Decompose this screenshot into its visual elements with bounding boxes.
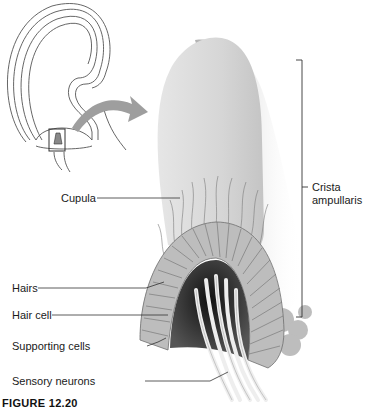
label-crista-line2: ampullaris <box>312 194 362 206</box>
label-cupula: Cupula <box>61 192 96 204</box>
label-supporting-cells: Supporting cells <box>12 340 90 352</box>
label-crista-line1: Crista <box>312 181 341 193</box>
inset-canal <box>7 4 126 172</box>
label-sensory-neurons: Sensory neurons <box>12 375 95 387</box>
figure-caption: FIGURE 12.20 <box>2 397 78 407</box>
label-hair-cell: Hair cell <box>12 309 52 321</box>
label-hairs: Hairs <box>12 282 38 294</box>
